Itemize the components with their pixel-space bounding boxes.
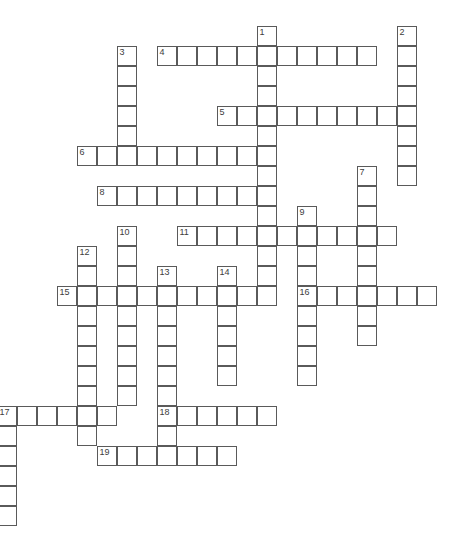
crossword-cell[interactable] [237, 226, 257, 246]
crossword-cell[interactable] [317, 106, 337, 126]
crossword-cell[interactable] [257, 146, 277, 166]
crossword-cell[interactable] [97, 146, 117, 166]
crossword-cell[interactable] [237, 46, 257, 66]
crossword-cell[interactable]: 6 [77, 146, 97, 166]
crossword-cell[interactable] [397, 46, 417, 66]
crossword-cell[interactable] [357, 206, 377, 226]
crossword-cell[interactable] [297, 306, 317, 326]
crossword-cell[interactable] [257, 66, 277, 86]
crossword-cell[interactable] [377, 286, 397, 306]
crossword-cell[interactable] [197, 186, 217, 206]
crossword-cell[interactable]: 4 [157, 46, 177, 66]
crossword-cell[interactable] [117, 186, 137, 206]
crossword-cell[interactable] [177, 146, 197, 166]
crossword-cell[interactable] [57, 406, 77, 426]
crossword-cell[interactable] [277, 106, 297, 126]
crossword-cell[interactable]: 15 [57, 286, 77, 306]
crossword-cell[interactable] [297, 366, 317, 386]
crossword-cell[interactable] [357, 286, 377, 306]
crossword-cell[interactable] [297, 326, 317, 346]
crossword-cell[interactable] [337, 286, 357, 306]
crossword-cell[interactable] [77, 326, 97, 346]
crossword-cell[interactable] [417, 286, 437, 306]
crossword-cell[interactable] [117, 106, 137, 126]
crossword-cell[interactable] [257, 126, 277, 146]
crossword-cell[interactable] [197, 226, 217, 246]
crossword-cell[interactable] [157, 286, 177, 306]
crossword-cell[interactable] [0, 466, 17, 486]
crossword-cell[interactable] [397, 126, 417, 146]
crossword-cell[interactable]: 10 [117, 226, 137, 246]
crossword-cell[interactable] [377, 226, 397, 246]
crossword-cell[interactable] [137, 186, 157, 206]
crossword-cell[interactable] [117, 346, 137, 366]
crossword-cell[interactable] [217, 186, 237, 206]
crossword-cell[interactable]: 14 [217, 266, 237, 286]
crossword-cell[interactable] [257, 186, 277, 206]
crossword-cell[interactable] [217, 366, 237, 386]
crossword-cell[interactable] [117, 386, 137, 406]
crossword-cell[interactable] [257, 106, 277, 126]
crossword-cell[interactable] [177, 446, 197, 466]
crossword-cell[interactable] [257, 406, 277, 426]
crossword-cell[interactable]: 3 [117, 46, 137, 66]
crossword-cell[interactable] [117, 306, 137, 326]
crossword-cell[interactable] [177, 186, 197, 206]
crossword-cell[interactable]: 19 [97, 446, 117, 466]
crossword-cell[interactable] [297, 246, 317, 266]
crossword-cell[interactable] [117, 286, 137, 306]
crossword-cell[interactable] [157, 426, 177, 446]
crossword-cell[interactable] [217, 46, 237, 66]
crossword-cell[interactable] [157, 306, 177, 326]
crossword-cell[interactable] [157, 326, 177, 346]
crossword-cell[interactable] [0, 486, 17, 506]
crossword-cell[interactable] [217, 146, 237, 166]
crossword-cell[interactable] [217, 226, 237, 246]
crossword-cell[interactable] [97, 406, 117, 426]
crossword-cell[interactable]: 8 [97, 186, 117, 206]
crossword-cell[interactable] [0, 426, 17, 446]
crossword-cell[interactable] [357, 46, 377, 66]
crossword-cell[interactable]: 2 [397, 26, 417, 46]
crossword-cell[interactable] [117, 266, 137, 286]
crossword-cell[interactable]: 16 [297, 286, 317, 306]
crossword-cell[interactable] [257, 86, 277, 106]
crossword-cell[interactable] [317, 46, 337, 66]
crossword-cell[interactable] [237, 186, 257, 206]
crossword-cell[interactable] [357, 186, 377, 206]
crossword-cell[interactable]: 9 [297, 206, 317, 226]
crossword-cell[interactable] [257, 266, 277, 286]
crossword-cell[interactable] [137, 146, 157, 166]
crossword-cell[interactable] [277, 46, 297, 66]
crossword-cell[interactable] [77, 366, 97, 386]
crossword-cell[interactable] [117, 66, 137, 86]
crossword-cell[interactable] [257, 206, 277, 226]
crossword-cell[interactable]: 13 [157, 266, 177, 286]
crossword-cell[interactable] [377, 106, 397, 126]
crossword-cell[interactable] [357, 246, 377, 266]
crossword-cell[interactable] [257, 226, 277, 246]
crossword-cell[interactable] [297, 346, 317, 366]
crossword-cell[interactable]: 7 [357, 166, 377, 186]
crossword-cell[interactable] [197, 446, 217, 466]
crossword-cell[interactable] [157, 346, 177, 366]
crossword-cell[interactable] [177, 46, 197, 66]
crossword-cell[interactable] [137, 446, 157, 466]
crossword-cell[interactable] [197, 406, 217, 426]
crossword-cell[interactable]: 12 [77, 246, 97, 266]
crossword-cell[interactable] [0, 446, 17, 466]
crossword-cell[interactable] [217, 306, 237, 326]
crossword-cell[interactable] [397, 106, 417, 126]
crossword-cell[interactable] [197, 46, 217, 66]
crossword-cell[interactable]: 1 [257, 26, 277, 46]
crossword-cell[interactable] [297, 46, 317, 66]
crossword-cell[interactable] [337, 46, 357, 66]
crossword-cell[interactable] [197, 146, 217, 166]
crossword-cell[interactable] [317, 226, 337, 246]
crossword-cell[interactable] [157, 186, 177, 206]
crossword-cell[interactable] [397, 166, 417, 186]
crossword-cell[interactable] [117, 126, 137, 146]
crossword-cell[interactable] [117, 326, 137, 346]
crossword-cell[interactable] [117, 446, 137, 466]
crossword-cell[interactable] [237, 406, 257, 426]
